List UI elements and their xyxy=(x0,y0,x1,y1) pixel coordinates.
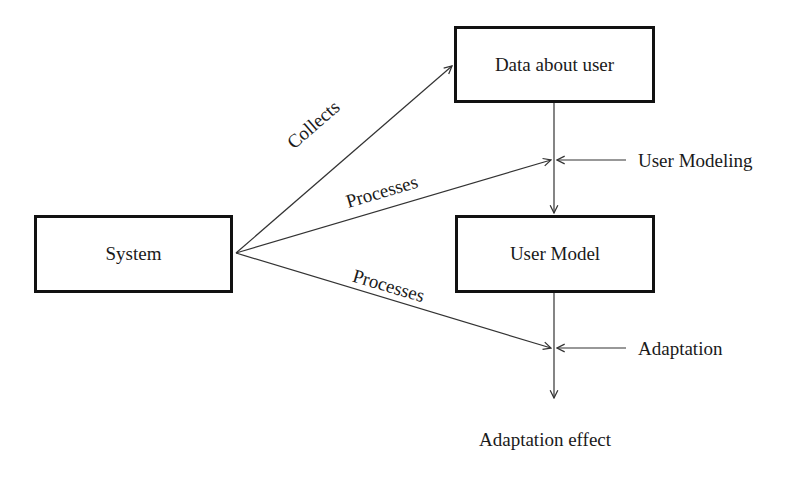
user-model-label: User Model xyxy=(510,243,600,265)
user-model-node: User Model xyxy=(455,215,655,293)
system-label: System xyxy=(106,243,162,265)
adaptation-label: Adaptation xyxy=(638,339,722,358)
data-about-user-node: Data about user xyxy=(454,26,655,103)
data-about-user-label: Data about user xyxy=(495,54,614,76)
user-modeling-label: User Modeling xyxy=(638,151,753,170)
system-node: System xyxy=(34,215,233,293)
collects-arrow xyxy=(236,66,452,253)
adaptation-effect-label: Adaptation effect xyxy=(479,430,611,449)
